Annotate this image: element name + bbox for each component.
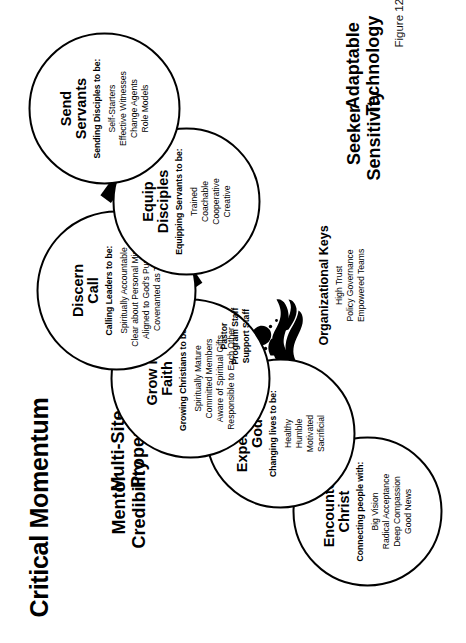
- list-item: Empowered Teams: [355, 225, 366, 345]
- circle-equip-disciples-items: Trained Coachable Cooperative Creative: [188, 178, 232, 224]
- list-item: Humble: [293, 414, 304, 451]
- circle-encounter-christ-subtitle: Connecting people with:: [355, 461, 364, 561]
- organizational-keys-block: Organizational Keys High Trust Policy Go…: [316, 225, 367, 345]
- list-item: High Trust: [333, 225, 344, 345]
- circle-encounter-christ-title-line2: Christ: [336, 475, 351, 547]
- circle-equip-disciples-subtitle: Equipping Servants to be:: [174, 148, 183, 254]
- diagram-canvas: Critical Momentum Mentor Credibility Mul…: [0, 0, 466, 643]
- list-item: Committed Members: [203, 327, 214, 430]
- circle-send-servants[interactable]: Send Servants Sending Disciples to be: S…: [28, 32, 180, 184]
- staff-role-program-staff: Program Staff: [229, 307, 240, 364]
- organizational-keys-items: High Trust Policy Governance Empowered T…: [333, 225, 367, 345]
- list-item: Spiritually Mature: [192, 327, 203, 430]
- circle-equip-disciples-title: Equip Disciples: [140, 169, 170, 233]
- circle-send-servants-title-line2: Servants: [73, 77, 88, 138]
- list-item: Effective Witnesses: [117, 71, 128, 146]
- staff-roles-list: Pastor Program Staff Support Staff: [218, 307, 252, 364]
- label-adaptable-technology: Adaptable Technology: [342, 15, 382, 115]
- label-adaptable-technology-line2: Technology: [362, 15, 382, 115]
- circle-send-servants-title-line1: Send: [58, 77, 73, 138]
- circle-equip-disciples-title-line2: Disciples: [155, 169, 170, 233]
- rotated-page-stage: Critical Momentum Mentor Credibility Mul…: [0, 0, 466, 643]
- staff-role-pastor: Pastor: [218, 307, 229, 364]
- list-item: Coachable: [199, 178, 210, 224]
- circle-experience-god-items: Healthy Humble Motivated Sacrificial: [282, 414, 326, 451]
- circle-encounter-christ-items: Big Vision Radical Acceptance Deep Compa…: [369, 473, 413, 548]
- organizational-keys-title: Organizational Keys: [316, 225, 331, 345]
- list-item: Healthy: [282, 414, 293, 451]
- list-item: Policy Governance: [344, 225, 355, 345]
- figure-caption: Figure 12.1.: [392, 0, 404, 47]
- list-item: Sacrificial: [315, 414, 326, 451]
- circle-discern-call-title-line1: Discern: [70, 263, 85, 316]
- circle-discern-call-subtitle: Calling Leaders to be:: [104, 245, 113, 335]
- circle-experience-god-subtitle: Changing lives to be:: [268, 390, 277, 477]
- circle-grow-in-faith-title-line2: Faith: [159, 351, 174, 405]
- list-item: Change Agents: [128, 71, 139, 146]
- circle-discern-call-title-line2: Call: [85, 263, 100, 316]
- circle-send-servants-subtitle: Sending Disciples to be:: [92, 58, 101, 158]
- list-item: Role Models: [139, 71, 150, 146]
- list-item: Big Vision: [369, 473, 380, 548]
- list-item: Trained: [188, 178, 199, 224]
- staff-role-support-staff: Support Staff: [240, 307, 251, 364]
- circle-discern-call-title: Discern Call: [70, 263, 100, 316]
- list-item: Creative: [221, 178, 232, 224]
- circle-send-servants-items: Self-Starters Effective Witnesses Change…: [106, 71, 150, 146]
- circle-send-servants-title: Send Servants: [58, 77, 88, 138]
- list-item: Motivated: [304, 414, 315, 451]
- list-item: Cooperative: [210, 178, 221, 224]
- circle-grow-in-faith-subtitle: Growing Christians to be:: [178, 325, 187, 430]
- circle-equip-disciples-title-line1: Equip: [140, 169, 155, 233]
- page-title: Critical Momentum: [24, 397, 53, 617]
- label-adaptable-technology-line1: Adaptable: [342, 15, 362, 115]
- list-item: Good News: [402, 473, 413, 548]
- list-item: Spiritually Accountable: [118, 234, 129, 346]
- list-item: Radical Acceptance: [380, 473, 391, 548]
- list-item: Deep Compassion: [391, 473, 402, 548]
- list-item: Self-Starters: [106, 71, 117, 146]
